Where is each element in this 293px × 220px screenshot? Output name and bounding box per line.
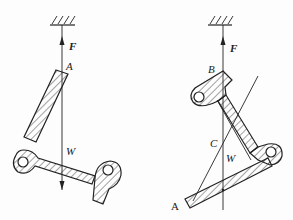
right-intersection-point: [222, 189, 225, 192]
right-figure: F B C W A: [171, 16, 282, 212]
left-slanted-link: [24, 70, 68, 142]
left-weight-arrow-icon: [60, 181, 65, 190]
right-diagonal-arm: [218, 95, 258, 153]
right-pivot-hole-lower: [266, 147, 276, 157]
right-force-label: F: [229, 42, 238, 54]
left-ceiling-support: [50, 16, 75, 25]
left-force-arrow-icon: [60, 36, 65, 45]
mechanics-diagram: F A W F B: [0, 0, 293, 220]
right-force-arrow-icon: [221, 36, 226, 45]
left-pivot-hole-right: [103, 165, 113, 175]
left-weight-label: W: [66, 145, 76, 157]
left-pivot-hole-left: [18, 157, 28, 167]
diagram-canvas: F A W F B: [0, 0, 293, 220]
left-point-a-label: A: [65, 60, 73, 72]
right-point-b-label: B: [208, 63, 215, 75]
right-weight-label: W: [226, 152, 236, 164]
right-ceiling-support: [208, 16, 233, 25]
left-lower-beam: [13, 150, 95, 184]
right-base-bar: [185, 158, 272, 208]
right-point-a-label: A: [171, 200, 179, 212]
left-figure: F A W: [13, 16, 121, 204]
right-point-c-label: C: [210, 137, 218, 149]
left-force-label: F: [68, 40, 77, 52]
right-pivot-hole-upper: [194, 92, 204, 102]
